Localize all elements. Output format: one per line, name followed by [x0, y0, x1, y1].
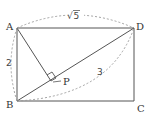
p-pointer: [53, 81, 61, 82]
measure-bd: 3: [97, 67, 103, 77]
arc-ab-2: [11, 28, 17, 101]
label-b: B: [6, 99, 13, 110]
label-a: A: [5, 21, 14, 32]
measure-ab: 2: [6, 58, 12, 68]
diagonal-bd: [17, 28, 134, 101]
segment-ap: [17, 28, 51, 81]
label-d: D: [136, 21, 144, 32]
geometry-diagram: A D B C P 2 3 √ 5: [0, 0, 149, 114]
sqrt-radicand: 5: [74, 11, 80, 21]
sqrt-symbol: √: [67, 11, 73, 21]
label-c: C: [137, 103, 145, 114]
label-p: P: [63, 76, 70, 87]
measure-ad: √ 5: [66, 9, 84, 21]
